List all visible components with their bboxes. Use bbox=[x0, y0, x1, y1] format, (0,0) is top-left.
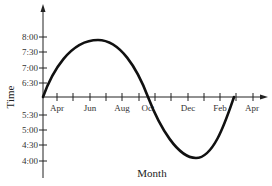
y-tick-label: 6:30 bbox=[22, 78, 39, 88]
x-tick-label: Feb bbox=[213, 103, 227, 113]
x-axis-title: Month bbox=[137, 167, 167, 179]
y-tick-label: 8:00 bbox=[22, 32, 39, 42]
y-tick-label: 4:30 bbox=[22, 140, 39, 150]
x-tick-label: Aug bbox=[114, 103, 130, 113]
x-tick-label: Apr bbox=[245, 103, 259, 113]
y-tick-label: 5:00 bbox=[22, 125, 39, 135]
y-axis-title: Time bbox=[4, 85, 16, 108]
y-tick-label: 4:00 bbox=[22, 156, 39, 166]
x-tick-label: Dec bbox=[181, 103, 196, 113]
chart: Apr Jun Aug Oct Dec Feb Apr 8:00 7:30 7:… bbox=[0, 0, 272, 186]
x-tick-label: Jun bbox=[84, 103, 97, 113]
y-tick-label: 5:30 bbox=[22, 110, 39, 120]
y-axis-arrow-icon bbox=[41, 4, 46, 12]
y-tick-label: 7:00 bbox=[22, 63, 39, 73]
y-tick-label: 7:30 bbox=[22, 47, 39, 57]
x-axis-arrow-icon bbox=[260, 95, 268, 100]
x-tick-label: Apr bbox=[50, 103, 64, 113]
